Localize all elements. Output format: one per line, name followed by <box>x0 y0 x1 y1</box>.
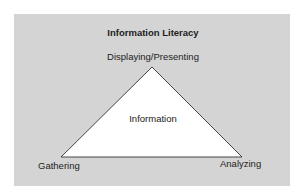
vertex-label-top: Displaying/Presenting <box>0 51 306 62</box>
vertex-label-bottom-right: Analyzing <box>220 158 261 169</box>
diagram-title: Information Literacy <box>0 27 306 38</box>
vertex-label-bottom-left: Gathering <box>38 160 80 171</box>
center-label: Information <box>0 113 306 124</box>
